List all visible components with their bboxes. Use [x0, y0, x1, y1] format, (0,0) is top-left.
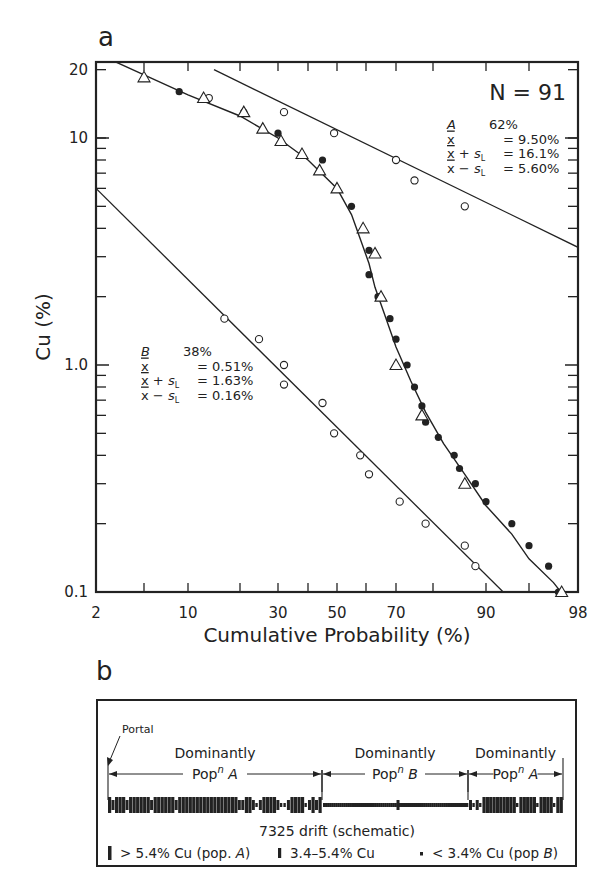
svg-text:3.4–5.4% Cu: 3.4–5.4% Cu: [290, 845, 375, 861]
x-tick-label: 90: [476, 604, 495, 622]
svg-text:A: A: [446, 117, 456, 132]
data-point-filled-circle: [482, 498, 489, 505]
zone-label: DominantlyPopn A: [175, 745, 256, 782]
mixture-curve: [112, 60, 565, 597]
data-point-open-circle: [422, 520, 429, 527]
tall-bar-icon: [108, 846, 112, 860]
svg-text:x: x: [447, 132, 455, 147]
svg-text:> 5.4% Cu (pop. A): > 5.4% Cu (pop. A): [120, 845, 250, 861]
svg-text:B: B: [141, 344, 150, 359]
legend-item: 3.4–5.4% Cu: [278, 845, 375, 861]
data-point-open-circle: [221, 315, 228, 322]
data-point-open-circle: [411, 177, 418, 184]
y-tick-label: 0.1: [64, 583, 88, 601]
data-point-open-circle: [255, 336, 262, 343]
x-tick-label: 98: [568, 604, 587, 622]
x-tick-label: 50: [327, 604, 346, 622]
svg-text:Dominantly: Dominantly: [475, 745, 556, 761]
svg-text:< 3.4% Cu (pop B): < 3.4% Cu (pop B): [432, 845, 558, 861]
data-point-filled-circle: [365, 271, 372, 278]
legend-item: > 5.4% Cu (pop. A): [108, 845, 250, 861]
data-point-triangle: [314, 164, 326, 175]
data-point-open-circle: [396, 498, 403, 505]
data-point-open-circle: [392, 156, 399, 163]
data-point-filled-circle: [545, 563, 552, 570]
data-point-open-circle: [357, 452, 364, 459]
data-point-triangle: [257, 123, 269, 134]
svg-text:= 16.1%: = 16.1%: [503, 146, 559, 161]
svg-text:62%: 62%: [489, 117, 518, 132]
svg-text:x − sL: x − sL: [141, 388, 180, 405]
data-point-open-circle: [461, 203, 468, 210]
sample-count: N = 91: [489, 80, 566, 105]
data-point-filled-circle: [386, 315, 393, 322]
legend-item: < 3.4% Cu (pop B): [420, 845, 558, 861]
data-point-triangle: [459, 478, 471, 489]
data-point-triangle: [390, 359, 402, 370]
data-point-open-circle: [461, 542, 468, 549]
data-point-open-circle: [280, 361, 287, 368]
data-point-open-circle: [280, 109, 287, 116]
x-tick-label: 30: [268, 604, 287, 622]
data-point-filled-circle: [508, 520, 515, 527]
data-point-filled-circle: [348, 203, 355, 210]
data-point-filled-circle: [435, 434, 442, 441]
data-point-triangle: [238, 106, 250, 117]
stats-population-a: A62%x= 9.50%x + sL= 16.1%x − sL= 5.60%: [446, 117, 559, 178]
drift-title: 7325 drift (schematic): [259, 823, 415, 839]
data-point-filled-circle: [319, 156, 326, 163]
data-point-triangle: [416, 409, 428, 420]
portal-label: Portal: [122, 723, 154, 736]
probability-plot: 210305070909820101.00.1Cumulative Probab…: [0, 0, 607, 660]
stats-population-b: B38%x= 0.51%x + sL= 1.63%x − sL= 0.16%: [141, 344, 253, 405]
schematic-frame: [97, 700, 576, 866]
svg-text:= 0.16%: = 0.16%: [197, 388, 253, 403]
svg-text:= 0.51%: = 0.51%: [197, 359, 253, 374]
y-tick-label: 1.0: [64, 356, 88, 374]
svg-text:= 9.50%: = 9.50%: [503, 132, 559, 147]
x-tick-label: 10: [178, 604, 197, 622]
data-point-open-circle: [331, 130, 338, 137]
zone-label: DominantlyPopn A: [475, 745, 556, 782]
svg-text:Dominantly: Dominantly: [175, 745, 256, 761]
svg-text:Popn A: Popn A: [493, 764, 539, 782]
data-point-filled-circle: [176, 88, 183, 95]
y-tick-label: 10: [69, 129, 88, 147]
x-tick-label: 70: [386, 604, 405, 622]
data-point-filled-circle: [411, 383, 418, 390]
svg-text:= 5.60%: = 5.60%: [503, 161, 559, 176]
data-point-filled-circle: [456, 465, 463, 472]
data-point-open-circle: [280, 381, 287, 388]
panel-label-b: b: [96, 656, 113, 686]
zone-label: DominantlyPopn B: [355, 745, 436, 782]
data-point-triangle: [357, 222, 369, 233]
x-axis-title: Cumulative Probability (%): [203, 623, 470, 647]
svg-text:Popn B: Popn B: [372, 764, 418, 782]
x-tick-label: 2: [91, 604, 101, 622]
svg-text:= 1.63%: = 1.63%: [197, 373, 253, 388]
y-tick-label: 20: [69, 61, 88, 79]
data-point-open-circle: [331, 430, 338, 437]
data-point-filled-circle: [525, 542, 532, 549]
data-point-open-circle: [365, 471, 372, 478]
y-axis-title: Cu (%): [31, 293, 55, 361]
svg-text:x: x: [141, 359, 149, 374]
svg-text:38%: 38%: [183, 344, 212, 359]
data-point-filled-circle: [451, 452, 458, 459]
data-point-filled-circle: [392, 336, 399, 343]
data-point-filled-circle: [472, 480, 479, 487]
data-point-open-circle: [472, 563, 479, 570]
svg-text:x − sL: x − sL: [447, 161, 486, 178]
svg-text:Popn A: Popn A: [192, 764, 238, 782]
data-point-open-circle: [319, 399, 326, 406]
small-square-icon: [420, 852, 423, 856]
medium-bar-icon: [278, 848, 281, 858]
data-point-filled-circle: [404, 361, 411, 368]
svg-text:Dominantly: Dominantly: [355, 745, 436, 761]
